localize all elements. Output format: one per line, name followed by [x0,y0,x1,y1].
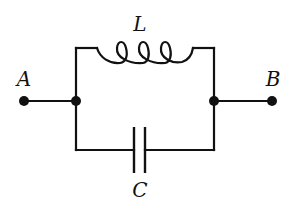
terminal-b-label: B [265,67,281,91]
capacitor-label: C [132,178,147,202]
inductor-label: L [132,12,146,36]
terminal-a-label: A [15,67,31,91]
junction-right-node [209,96,219,106]
junction-left-node [71,96,81,106]
terminal-b-node [267,96,277,106]
terminal-a-node [19,96,29,106]
inductor-symbol [97,42,193,63]
circuit-diagram: L C A B [0,0,296,207]
